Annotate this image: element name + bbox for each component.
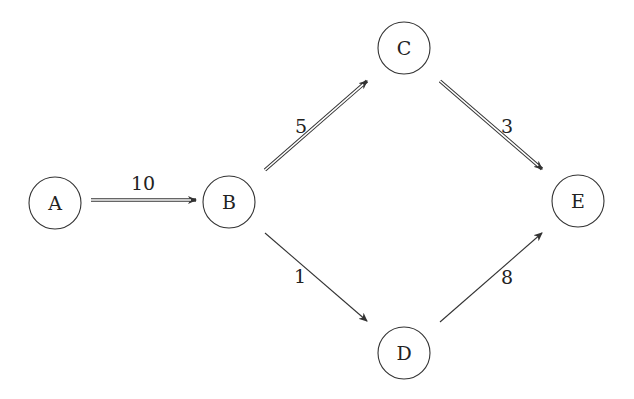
- edge-weight-label: 5: [295, 115, 307, 137]
- edge-b-c: [265, 81, 367, 170]
- node-label: E: [571, 190, 585, 212]
- edge-d-e: [440, 233, 542, 322]
- edges-layer: [91, 81, 542, 322]
- node-label: D: [396, 342, 411, 364]
- node-c: C: [378, 22, 430, 74]
- edge-line-inner: [440, 81, 538, 166]
- graph-diagram: ABCDE 105318: [0, 0, 634, 399]
- edge-c-e: [440, 81, 542, 169]
- node-label: C: [397, 37, 412, 59]
- edge-b-d: [265, 233, 367, 321]
- edge-weight-label: 8: [501, 266, 513, 288]
- node-e: E: [552, 175, 604, 227]
- node-a: A: [29, 177, 81, 229]
- edge-line: [440, 233, 542, 322]
- edge-line-inner: [265, 84, 363, 170]
- node-label: B: [222, 191, 236, 213]
- edge-weight-label: 3: [501, 115, 513, 137]
- node-label: A: [47, 192, 62, 214]
- edge-weight-label: 10: [131, 172, 155, 194]
- node-d: D: [378, 327, 430, 379]
- edge-line: [265, 233, 367, 321]
- edge-weight-label: 1: [294, 265, 306, 287]
- node-b: B: [203, 176, 255, 228]
